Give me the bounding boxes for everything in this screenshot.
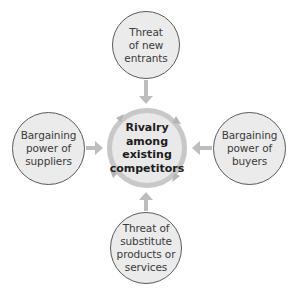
force-threat-of-new-entrants: Threat of new entrants [112, 11, 180, 79]
arrow-top-to-center [139, 80, 153, 104]
force-bargaining-power-of-suppliers: Bargaining power of suppliers [12, 112, 85, 185]
force-threat-of-substitutes: Threat of substitute products or service… [110, 212, 182, 284]
center-rivalry-among-competitors: Rivalry among existing competitors [111, 112, 183, 184]
five-forces-diagram: Threat of new entrants Bargaining power … [0, 0, 292, 298]
arrow-right-to-center [192, 141, 212, 155]
force-label: Bargaining power of buyers [218, 129, 282, 168]
force-label: Bargaining power of suppliers [17, 129, 81, 168]
arrow-bottom-to-center [139, 192, 153, 211]
center-label: Rivalry among existing competitors [106, 121, 189, 175]
arrow-left-to-center [86, 141, 103, 155]
force-bargaining-power-of-buyers: Bargaining power of buyers [213, 112, 286, 185]
force-label: Threat of substitute products or service… [113, 222, 180, 274]
force-label: Threat of new entrants [120, 26, 171, 65]
